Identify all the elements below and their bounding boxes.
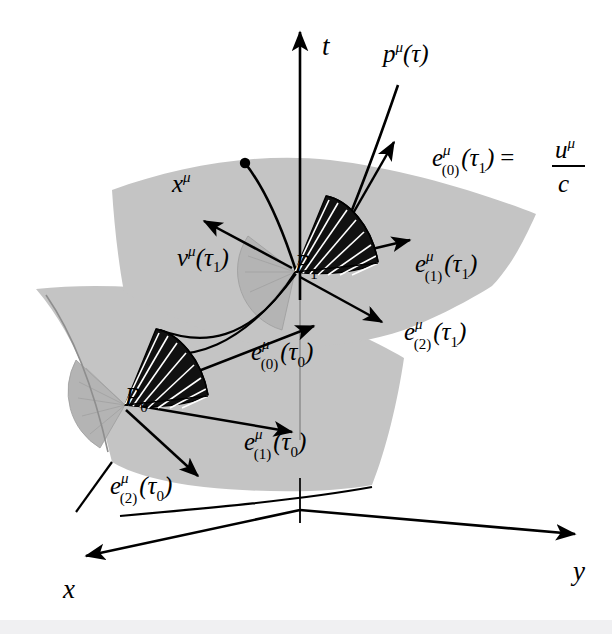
velocity-label-arg-subscript: 1 [213, 259, 221, 275]
point-label-P1-base: P [294, 250, 310, 277]
e2-tau1-arg-open: (τ [433, 318, 451, 346]
y-axis [300, 510, 575, 534]
e2-tau0-arg-open: (τ [139, 472, 157, 500]
axis-label-t: t [322, 31, 331, 61]
e0-tau1-index: (0) [442, 162, 460, 179]
e1-tau1-superscript: μ [425, 248, 434, 264]
momentum-label: pμ(τ) [381, 39, 429, 68]
e0-tau0-index: (0) [261, 356, 279, 373]
point-label-P0-subscript: 0 [140, 399, 148, 415]
e1-tau1-index: (1) [425, 268, 443, 285]
e0-tau1-arg-open: (τ [461, 144, 479, 172]
point-label-P0-base: P [124, 383, 140, 410]
e0-tau0-arg-close: ) [303, 338, 313, 366]
e2-tau1-index: (2) [414, 336, 432, 353]
e1-tau0-arg-close: ) [296, 428, 306, 456]
lower-surface-left-edge [76, 462, 112, 512]
momentum-label-argument: (τ) [403, 40, 429, 68]
momentum-label-base: p [381, 40, 396, 67]
e0-tau0-superscript: μ [261, 336, 270, 352]
e2-tau0-index: (2) [120, 490, 138, 507]
e1-tau1-arg-open: (τ [444, 250, 462, 278]
e1-tau1-arg-close: ) [467, 250, 477, 278]
e0-tau1-fraction-numerator: uμ [555, 135, 576, 163]
event-point-dot [240, 158, 250, 168]
x-axis [86, 510, 300, 556]
e2-tau0-superscript: μ [120, 470, 129, 486]
tetrad-label-e2-tau1: eμ(2)(τ1) [404, 316, 466, 353]
event-label-base: x [171, 170, 183, 197]
e0-tau1-fraction-denominator: c [558, 170, 569, 197]
e1-tau0-superscript: μ [254, 426, 263, 442]
velocity-label-arg-close: ) [218, 244, 228, 272]
velocity-label-arg-open: (τ [196, 244, 214, 272]
e0-tau1-arg-subscript: 1 [478, 160, 486, 176]
svg-text:eμ(0)(τ1)=: eμ(0)(τ1)= [432, 142, 514, 179]
e1-tau1-arg-subscript: 1 [461, 266, 469, 282]
e0-tau0-arg-subscript: 0 [297, 354, 305, 370]
e0-tau1-equals: = [500, 144, 514, 171]
e2-tau0-arg-subscript: 0 [156, 488, 164, 504]
e0-tau1-arg-close: ) [484, 144, 494, 172]
event-label-superscript: μ [182, 169, 191, 185]
axis-label-x: x [62, 574, 75, 604]
e2-tau1-superscript: μ [414, 316, 423, 332]
axis-label-y: y [570, 556, 585, 586]
velocity-label: vμ(τ1) [177, 243, 229, 275]
e1-tau0-index: (1) [254, 446, 272, 463]
point-label-P1-subscript: 1 [310, 266, 318, 282]
bottom-page-band [0, 620, 612, 634]
e2-tau1-arg-subscript: 1 [450, 334, 458, 350]
e1-tau0-arg-subscript: 0 [290, 444, 298, 460]
e1-tau0-arg-open: (τ [273, 428, 291, 456]
e2-tau0-arg-close: ) [162, 472, 172, 500]
e0-tau1-frac-num-base: u [555, 136, 568, 163]
e0-tau0-arg-open: (τ [280, 338, 298, 366]
e0-tau1-superscript: μ [442, 142, 451, 158]
e2-tau1-arg-close: ) [456, 318, 466, 346]
spacetime-diagram: t x y xμ pμ(τ) vμ(τ1) P1 P0 eμ(0)(τ1)= u [0, 0, 612, 634]
e0-tau1-frac-num-superscript: μ [567, 135, 576, 151]
figure-root: t x y xμ pμ(τ) vμ(τ1) P1 P0 eμ(0)(τ1)= u [0, 0, 612, 634]
